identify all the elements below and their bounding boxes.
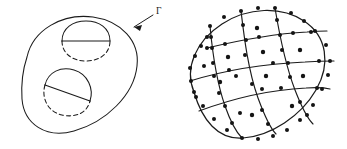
right-figure-svg	[174, 0, 347, 149]
upper-hole-solid-arc	[62, 21, 110, 41]
lower-hole-solid-arc	[45, 69, 91, 101]
upper-hole-dashed-arc	[62, 41, 110, 61]
outer-boundary-curve	[22, 16, 138, 133]
mesh-grid-family-b	[210, 8, 313, 138]
upper-hole	[62, 21, 110, 61]
lower-hole-chord	[45, 85, 90, 101]
panel-domain-with-two-holes: Γ	[0, 0, 174, 149]
lower-hole-dashed-arc	[44, 85, 90, 116]
boundary-label-gamma: Γ	[156, 6, 162, 16]
lower-hole	[44, 69, 91, 116]
figure-root: Γ	[0, 0, 347, 149]
left-figure-svg: Γ	[0, 0, 174, 149]
panel-finite-element-mesh	[174, 0, 347, 149]
gamma-leader-arrow	[134, 15, 153, 31]
